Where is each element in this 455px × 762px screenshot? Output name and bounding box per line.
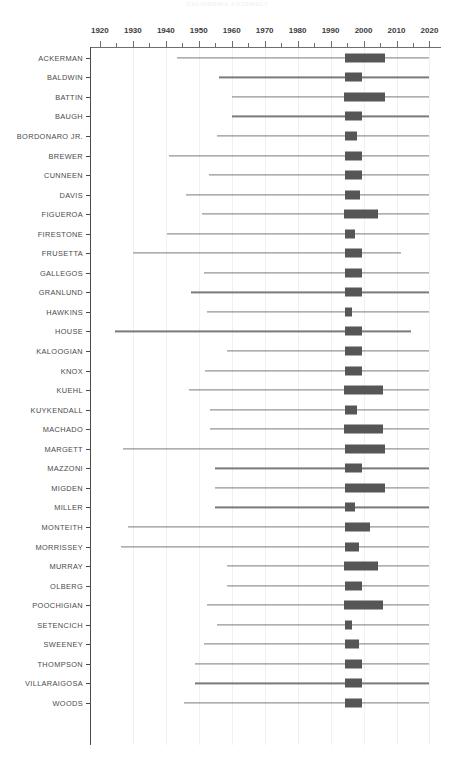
chart-row[interactable]: OLBERG: [0, 576, 455, 596]
row-whisker: [217, 624, 430, 625]
row-box: [345, 307, 352, 316]
row-box: [345, 268, 361, 277]
x-tick-1930: [133, 41, 134, 48]
chart-row[interactable]: BATTIN: [0, 87, 455, 107]
row-box: [345, 679, 361, 688]
chart-row[interactable]: WOODS: [0, 693, 455, 713]
y-tick: [86, 234, 90, 235]
chart-row[interactable]: SWEENEY: [0, 635, 455, 655]
chart-row[interactable]: KNOX: [0, 361, 455, 381]
row-whisker: [177, 57, 429, 58]
x-tick-1940: [166, 41, 167, 48]
x-tick-1990: [331, 41, 332, 48]
chart-row[interactable]: BREWER: [0, 146, 455, 166]
y-tick: [86, 97, 90, 98]
chart-row[interactable]: CUNNEEN: [0, 165, 455, 185]
chart-row[interactable]: THOMPSON: [0, 654, 455, 674]
row-box: [344, 425, 384, 434]
row-label-thompson: THOMPSON: [37, 659, 83, 668]
row-whisker: [227, 350, 430, 351]
row-label-kuehl: KUEHL: [57, 386, 83, 395]
x-tick-1950: [199, 41, 200, 48]
row-label-woods: WOODS: [53, 698, 84, 707]
chart-row[interactable]: DAVIS: [0, 185, 455, 205]
chart-row[interactable]: FRUSETTA: [0, 244, 455, 264]
x-tick-label-1930: 1930: [116, 26, 150, 35]
y-tick: [86, 488, 90, 489]
chart-row[interactable]: KUYKENDALL: [0, 400, 455, 420]
row-box: [345, 659, 361, 668]
row-whisker: [191, 292, 430, 293]
row-whisker: [204, 644, 430, 645]
chart-row[interactable]: MONTEITH: [0, 517, 455, 537]
row-label-margett: MARGETT: [44, 444, 83, 453]
y-tick: [86, 175, 90, 176]
row-label-bordonaro-jr-: BORDONARO JR.: [17, 131, 83, 140]
x-tick-2000: [364, 41, 365, 48]
y-tick: [86, 312, 90, 313]
chart-row[interactable]: BALDWIN: [0, 68, 455, 88]
chart-row[interactable]: KALOOGIAN: [0, 341, 455, 361]
row-label-davis: DAVIS: [60, 190, 83, 199]
row-label-sweeney: SWEENEY: [44, 640, 83, 649]
chart-row[interactable]: ACKERMAN: [0, 48, 455, 68]
chart-row[interactable]: SETENCICH: [0, 615, 455, 635]
row-box: [345, 151, 361, 160]
row-label-villaraigosa: VILLARAIGOSA: [25, 679, 83, 688]
chart-row[interactable]: MACHADO: [0, 419, 455, 439]
row-label-migden: MIGDEN: [51, 483, 83, 492]
chart-row[interactable]: HAWKINS: [0, 302, 455, 322]
chart-row[interactable]: GALLEGOS: [0, 263, 455, 283]
x-tick-label-1970: 1970: [248, 26, 282, 35]
chart-row[interactable]: MORRISSEY: [0, 537, 455, 557]
row-whisker: [115, 331, 412, 332]
y-tick: [86, 410, 90, 411]
row-box: [344, 386, 384, 395]
y-tick: [86, 703, 90, 704]
row-label-mazzoni: MAZZONI: [47, 464, 83, 473]
row-label-machado: MACHADO: [43, 425, 83, 434]
chart-row[interactable]: VILLARAIGOSA: [0, 674, 455, 694]
chart-row[interactable]: MAZZONI: [0, 459, 455, 479]
plot-area: 1920193019401950196019701980199020002010…: [0, 0, 455, 762]
chart-row[interactable]: MARGETT: [0, 439, 455, 459]
chart-row[interactable]: FIGUEROA: [0, 204, 455, 224]
chart-row[interactable]: POOCHIGIAN: [0, 595, 455, 615]
row-whisker: [209, 174, 430, 175]
row-box: [345, 698, 361, 707]
chart-row[interactable]: GRANLUND: [0, 283, 455, 303]
row-box: [345, 581, 361, 590]
chart-row[interactable]: MILLER: [0, 498, 455, 518]
x-tick-2020: [429, 41, 430, 48]
row-box: [345, 229, 355, 238]
row-label-olberg: OLBERG: [50, 581, 83, 590]
x-tick-1970: [265, 41, 266, 48]
row-box: [344, 92, 385, 101]
chart-row[interactable]: FIRESTONE: [0, 224, 455, 244]
row-box: [345, 190, 360, 199]
chart-row[interactable]: MIGDEN: [0, 478, 455, 498]
x-tick-1980: [298, 41, 299, 48]
row-box: [345, 640, 358, 649]
row-whisker: [169, 155, 429, 156]
row-box: [345, 366, 361, 375]
y-tick: [86, 547, 90, 548]
chart-row[interactable]: MURRAY: [0, 556, 455, 576]
x-tick-label-1960: 1960: [215, 26, 249, 35]
chart-row[interactable]: BORDONARO JR.: [0, 126, 455, 146]
row-box: [345, 503, 355, 512]
row-label-kuykendall: KUYKENDALL: [31, 405, 83, 414]
row-label-frusetta: FRUSETTA: [42, 249, 83, 258]
row-label-figueroa: FIGUEROA: [42, 210, 83, 219]
chart-root: CALIFORNIA ASSEMBLY 19201930194019501960…: [0, 0, 455, 762]
chart-row[interactable]: BAUGH: [0, 107, 455, 127]
chart-row[interactable]: KUEHL: [0, 380, 455, 400]
x-tick-label-1940: 1940: [149, 26, 183, 35]
x-tick-label-2020: 2020: [412, 26, 446, 35]
y-tick: [86, 58, 90, 59]
y-tick: [86, 586, 90, 587]
x-tick-label-2000: 2000: [347, 26, 381, 35]
chart-row[interactable]: HOUSE: [0, 322, 455, 342]
row-label-morrissey: MORRISSEY: [35, 542, 83, 551]
y-tick: [86, 214, 90, 215]
